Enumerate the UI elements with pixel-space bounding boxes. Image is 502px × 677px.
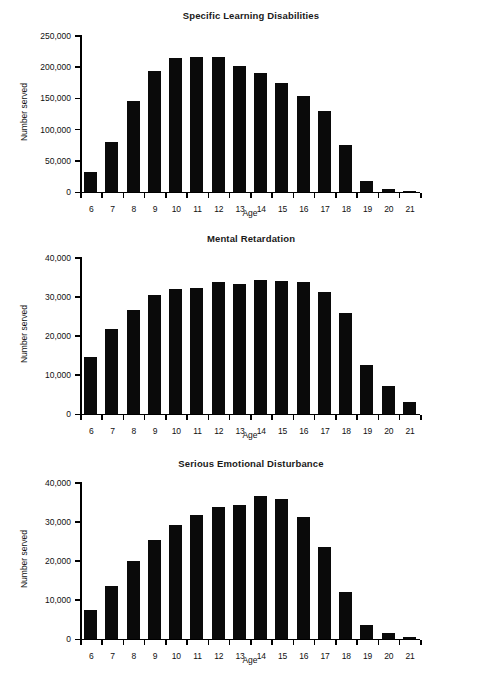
y-axis-line [80, 257, 82, 415]
bar [403, 402, 416, 414]
bar [127, 561, 140, 638]
bar [403, 191, 416, 192]
x-axis-tick [80, 640, 82, 645]
figure-page: Specific Learning Disabilities 050,00010… [0, 0, 502, 677]
x-axis-tick [356, 193, 358, 198]
x-axis-tick [378, 640, 380, 645]
x-axis-tick [314, 415, 316, 420]
y-axis-tick-label: 40,000 [45, 253, 71, 263]
bar [275, 281, 288, 413]
bar [148, 540, 161, 639]
y-axis-label: Number served [19, 499, 29, 619]
bar [382, 386, 395, 414]
y-axis-tick-label: 0 [66, 634, 71, 644]
y-axis-tick-label: 100,000 [40, 125, 71, 135]
y-axis-line [80, 35, 82, 193]
y-axis-label: Number served [19, 52, 29, 172]
y-axis-label: Number served [19, 274, 29, 394]
bar [339, 313, 352, 414]
bar [105, 329, 118, 413]
x-axis-label: Age [80, 430, 420, 440]
x-axis-tick [271, 415, 273, 420]
x-axis-tick [123, 415, 125, 420]
bar [105, 142, 118, 191]
plot-area: 010,00020,00030,00040,000678910111213141… [80, 482, 420, 640]
chart-title: Mental Retardation [0, 233, 502, 244]
bar [339, 592, 352, 639]
y-axis-tick: 30,000 [75, 521, 80, 523]
bar [127, 310, 140, 414]
x-axis-tick [250, 193, 252, 198]
y-axis-tick-label: 0 [66, 409, 71, 419]
x-axis-tick [165, 415, 167, 420]
bar [190, 288, 203, 414]
bar [84, 172, 97, 191]
x-axis-tick [314, 640, 316, 645]
x-axis-tick [250, 640, 252, 645]
x-axis-tick [399, 640, 401, 645]
x-axis-tick [80, 415, 82, 420]
bar [297, 96, 310, 192]
y-axis-tick: 40,000 [75, 482, 80, 484]
y-axis-tick-label: 250,000 [40, 31, 71, 41]
y-axis-tick-label: 30,000 [45, 292, 71, 302]
bar [339, 145, 352, 191]
x-axis-tick [165, 640, 167, 645]
x-axis-tick [80, 193, 82, 198]
y-axis-tick-label: 40,000 [45, 478, 71, 488]
x-axis-tick [335, 193, 337, 198]
bar [360, 625, 373, 638]
x-axis-tick [144, 193, 146, 198]
chart-title: Specific Learning Disabilities [0, 10, 502, 21]
y-axis-tick-label: 50,000 [45, 156, 71, 166]
x-axis-tick [271, 193, 273, 198]
bar [318, 292, 331, 413]
bar [127, 101, 140, 191]
x-axis-tick [123, 193, 125, 198]
bar [360, 365, 373, 414]
x-axis-tick [378, 415, 380, 420]
x-axis-tick [335, 640, 337, 645]
x-axis-tick [101, 193, 103, 198]
x-axis-tick [356, 640, 358, 645]
bar [275, 83, 288, 191]
x-axis-tick [314, 193, 316, 198]
x-axis-tick [399, 193, 401, 198]
y-axis-line [80, 482, 82, 640]
plot-area: 010,00020,00030,00040,000678910111213141… [80, 257, 420, 415]
y-axis-tick-label: 20,000 [45, 556, 71, 566]
bar [318, 547, 331, 638]
bar [212, 57, 225, 192]
bar [382, 633, 395, 638]
y-axis-tick-label: 10,000 [45, 595, 71, 605]
bar [190, 515, 203, 638]
y-axis-tick: 20,000 [75, 335, 80, 337]
x-axis-label: Age [80, 655, 420, 665]
bar [212, 507, 225, 638]
bar [105, 586, 118, 638]
x-axis-tick [144, 415, 146, 420]
x-axis-tick [123, 640, 125, 645]
y-axis-tick-label: 20,000 [45, 331, 71, 341]
y-axis-tick-label: 30,000 [45, 517, 71, 527]
chart-title: Serious Emotional Disturbance [0, 458, 502, 469]
y-axis-tick-label: 0 [66, 187, 71, 197]
y-axis-tick: 100,000 [75, 129, 80, 131]
chart-panel-specific-learning-disabilities: Specific Learning Disabilities 050,00010… [0, 0, 502, 225]
x-axis-tick [208, 640, 210, 645]
x-axis-tick [420, 640, 422, 645]
x-axis-tick [165, 193, 167, 198]
x-axis-tick [186, 193, 188, 198]
chart-panel-mental-retardation: Mental Retardation 010,00020,00030,00040… [0, 225, 502, 450]
bar [233, 284, 246, 414]
bar [382, 189, 395, 192]
x-axis-tick [229, 193, 231, 198]
x-axis-tick [229, 640, 231, 645]
bar [403, 637, 416, 639]
y-axis-tick: 10,000 [75, 599, 80, 601]
x-axis-tick [378, 193, 380, 198]
y-axis-tick: 250,000 [75, 35, 80, 37]
bar [275, 499, 288, 638]
bar [297, 282, 310, 413]
y-axis-tick-label: 150,000 [40, 93, 71, 103]
